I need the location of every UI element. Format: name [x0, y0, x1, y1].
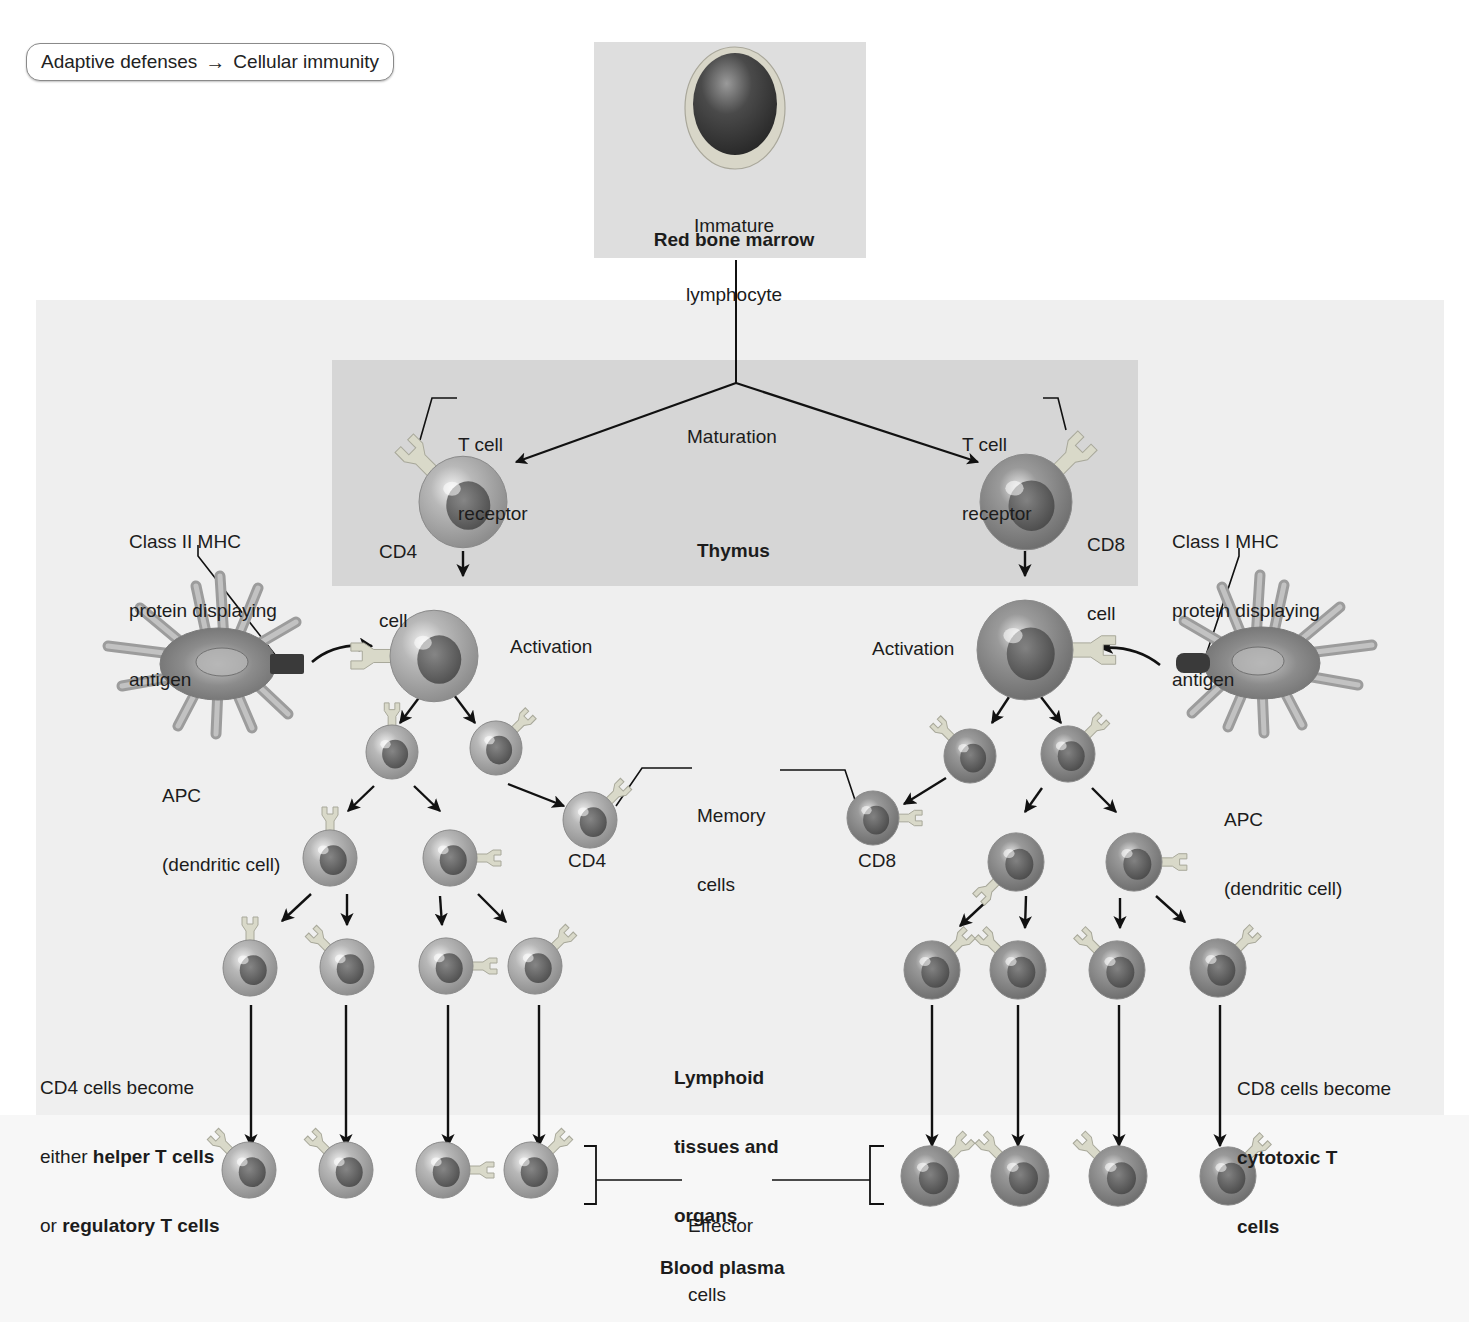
cell-highlight — [1005, 957, 1016, 966]
activation-label-left: Activation — [510, 635, 592, 658]
label-line: antigen — [129, 668, 277, 691]
label-line: cell — [379, 609, 417, 632]
arrow-icon — [1025, 896, 1026, 928]
label-line: cells — [697, 873, 766, 896]
breadcrumb: Adaptive defenses → Cellular immunity — [26, 43, 394, 81]
label-line: Class I MHC — [1172, 530, 1320, 553]
label-line: protein displaying — [1172, 599, 1320, 622]
label-line: Memory — [697, 804, 766, 827]
label-line: (dendritic cell) — [162, 853, 280, 876]
class-ii-mhc-label: Class II MHC protein displaying antigen — [129, 484, 277, 737]
cell-highlight — [1215, 1163, 1226, 1172]
cell-highlight — [434, 954, 445, 963]
label-line: cells — [1237, 1215, 1391, 1238]
helper-t-cells-term: helper T cells — [93, 1146, 214, 1167]
cell-highlight — [578, 808, 589, 817]
label-line: antigen — [1172, 668, 1320, 691]
label-text: or — [40, 1215, 62, 1236]
label-line: receptor — [458, 502, 528, 525]
memory-cd8-label: CD8 — [858, 849, 896, 872]
red-bone-marrow-label: Red bone marrow — [624, 228, 844, 251]
t-cell-receptor-label-right: T cell receptor — [962, 387, 1032, 571]
label-line: receptor — [962, 502, 1032, 525]
apc-label-left: APC (dendritic cell) — [162, 738, 280, 922]
cell-highlight — [484, 736, 494, 744]
label-line: CD4 cells become — [40, 1076, 220, 1099]
effector-cells-label: Effector cells — [688, 1168, 753, 1322]
cell-highlight — [861, 806, 871, 814]
label-line: CD8 cells become — [1237, 1077, 1391, 1100]
immature-lymphocyte — [685, 47, 785, 169]
blood-plasma-label: Blood plasma — [660, 1256, 785, 1279]
t-cell-maturation-diagram: Adaptive defenses → Cellular immunity Im… — [0, 0, 1469, 1322]
label-line: CD4 — [379, 540, 417, 563]
memory-cd4-label: CD4 — [568, 849, 606, 872]
label-text: either — [40, 1146, 93, 1167]
arrow-right-icon: → — [205, 52, 225, 72]
cell-highlight — [380, 740, 390, 748]
cell-highlight — [318, 846, 329, 855]
cell-highlight — [519, 1158, 530, 1167]
cell-highlight — [958, 744, 968, 752]
cell-highlight — [1007, 1163, 1019, 1172]
label-line: lymphocyte — [664, 283, 804, 306]
class-i-mhc-label: Class I MHC protein displaying antigen — [1172, 484, 1320, 737]
breadcrumb-to: Cellular immunity — [233, 51, 379, 73]
cd4-cell-label: CD4 cell — [379, 494, 417, 678]
label-line: APC — [162, 784, 280, 807]
thymus-label: Thymus — [697, 539, 770, 562]
label-line: cells — [688, 1283, 753, 1306]
breadcrumb-from: Adaptive defenses — [41, 51, 197, 73]
cell-highlight — [1105, 1163, 1117, 1172]
cell-highlight — [431, 1158, 442, 1167]
cell-highlight — [1056, 742, 1067, 751]
label-line: (dendritic cell) — [1224, 877, 1342, 900]
regulatory-t-cells-term: regulatory T cells — [62, 1215, 219, 1236]
cell-highlight — [334, 1158, 345, 1167]
cell-highlight — [237, 1158, 248, 1167]
label-line: CD8 — [1087, 533, 1125, 556]
label-line: or regulatory T cells — [40, 1214, 220, 1237]
activation-label-right: Activation — [872, 637, 954, 660]
cell-nucleus — [693, 53, 777, 155]
label-line: Class II MHC — [129, 530, 277, 553]
cell-highlight — [238, 956, 249, 965]
cell-highlight — [335, 955, 346, 964]
label-line: either helper T cells — [40, 1145, 220, 1168]
cell-highlight — [1003, 849, 1014, 858]
maturation-label: Maturation — [687, 425, 777, 448]
cell-highlight — [1003, 628, 1022, 643]
cell-highlight — [1104, 957, 1115, 966]
cytotoxic-t-cells-term: cytotoxic T — [1237, 1146, 1391, 1169]
cell-highlight — [438, 846, 449, 855]
label-line: protein displaying — [129, 599, 277, 622]
label-line: T cell — [962, 433, 1032, 456]
immature-lymphocyte-label: Immature lymphocyte — [664, 168, 804, 352]
cell-highlight — [523, 954, 534, 963]
cell-highlight — [1205, 955, 1216, 964]
cell-highlight — [917, 1163, 929, 1172]
label-line: APC — [1224, 808, 1342, 831]
label-line: Effector — [688, 1214, 753, 1237]
cell-highlight — [1121, 849, 1132, 858]
label-line: cell — [1087, 602, 1125, 625]
label-line: Lymphoid — [674, 1066, 779, 1089]
cd4-fate-label: CD4 cells become either helper T cells o… — [40, 1030, 220, 1283]
apc-label-right: APC (dendritic cell) — [1224, 762, 1342, 946]
t-cell-receptor-label-left: T cell receptor — [458, 387, 528, 571]
label-line: T cell — [458, 433, 528, 456]
cd8-cell-label: CD8 cell — [1087, 487, 1125, 671]
memory-cells-label: Memory cells — [697, 758, 766, 942]
cd8-fate-label: CD8 cells become cytotoxic T cells — [1237, 1031, 1391, 1284]
cell-highlight — [919, 957, 930, 966]
label-line: tissues and — [674, 1135, 779, 1158]
